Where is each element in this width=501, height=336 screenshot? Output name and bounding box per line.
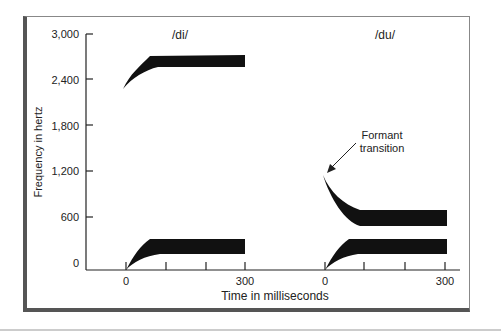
y-tick-0: 0 — [73, 257, 79, 269]
di-f1-band — [126, 239, 245, 270]
x-tick-left-300: 300 — [236, 275, 254, 287]
panel-label-di: /di/ — [172, 28, 189, 42]
arrow-head-icon — [327, 164, 336, 173]
formant-chart: 3,000 2,400 1,800 1,200 600 0 Frequency … — [0, 0, 501, 336]
y-tick-1800: 1,800 — [51, 120, 79, 132]
y-tick-2400: 2,400 — [51, 74, 79, 86]
du-f2-band — [323, 175, 447, 226]
du-f1-band — [325, 239, 447, 270]
x-tick-right-0: 0 — [322, 275, 328, 287]
annotation-line-2: transition — [360, 142, 405, 154]
x-axis-label: Time in milliseconds — [221, 289, 329, 303]
y-ticks — [86, 34, 93, 217]
x-tick-right-300: 300 — [436, 275, 454, 287]
x-tick-left-0: 0 — [123, 275, 129, 287]
y-axis-label: Frequency in hertz — [32, 106, 44, 197]
y-tick-600: 600 — [61, 211, 79, 223]
x-ticks — [126, 262, 445, 270]
di-f2-band — [123, 55, 245, 89]
panel-label-du: /du/ — [375, 28, 396, 42]
annotation-arrow-line — [331, 143, 356, 168]
y-tick-1200: 1,200 — [51, 165, 79, 177]
annotation-line-1: Formant — [362, 129, 403, 141]
y-tick-3000: 3,000 — [51, 28, 79, 40]
